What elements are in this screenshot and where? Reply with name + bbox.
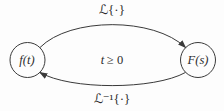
laplace-transform-diagram: ℒ{·} ℒ⁻¹{·} t≥ 0 f(t) F(s) — [0, 0, 224, 111]
domain-note-condition: ≥ 0 — [107, 53, 123, 67]
forward-transform-label: ℒ{·} — [0, 3, 224, 17]
node-fs-label: F(s) — [180, 53, 216, 67]
inverse-transform-arrow — [40, 72, 186, 85]
node-ft-label: f(t) — [9, 53, 45, 67]
inverse-transform-label: ℒ⁻¹{·} — [0, 92, 224, 106]
forward-transform-arrow — [40, 25, 186, 48]
